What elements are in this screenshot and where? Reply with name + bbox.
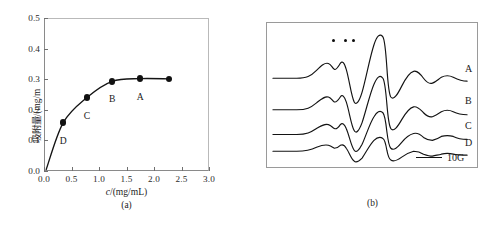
data-point <box>109 78 115 84</box>
x-axis-label: c/(mg/mL) <box>44 186 209 197</box>
panel-b-caption: (b) <box>250 198 495 208</box>
panel-a-adsorption-isotherm: 吸附量/(mg/m 0.00.10.20.30.40.5 0.00.51.01.… <box>0 0 250 232</box>
data-point-label-c: C <box>84 110 90 121</box>
y-tick-label: 0.3 <box>28 74 40 84</box>
trace-label-b: B <box>465 95 472 106</box>
figure-root: 吸附量/(mg/m 0.00.10.20.30.40.5 0.00.51.01.… <box>0 0 495 232</box>
y-tick-label: 0.1 <box>28 135 40 145</box>
y-tick-label: 0.5 <box>28 13 40 23</box>
isotherm-curve <box>44 18 209 171</box>
x-tick <box>209 167 210 171</box>
panel-b-epr-spectra: ABCD 10G (b) <box>250 0 495 232</box>
data-point-label-a: A <box>137 91 144 102</box>
scale-bar-label: 10G <box>447 152 464 163</box>
x-axis-label-units: /(mg/mL) <box>110 186 147 197</box>
y-tick <box>44 171 48 172</box>
spectra-plot-box <box>266 22 478 168</box>
data-point-label-b: B <box>109 93 115 104</box>
trace-label-d: D <box>465 137 472 148</box>
y-tick-label: 0.2 <box>28 105 40 115</box>
spectra-traces <box>267 23 477 167</box>
data-point <box>84 94 90 100</box>
scale-bar-line <box>416 157 442 158</box>
data-point-label-d: D <box>60 135 67 146</box>
data-point <box>166 76 172 82</box>
y-tick-label: 0.4 <box>28 44 40 54</box>
panel-a-caption: (a) <box>44 200 209 210</box>
trace-label-c: C <box>465 120 472 131</box>
trace-label-a: A <box>465 63 472 74</box>
plot-area-a: 0.00.10.20.30.40.5 0.00.51.01.52.02.53.0… <box>44 18 209 171</box>
scale-bar: 10G <box>416 152 464 163</box>
spectrum-trace-a <box>273 35 467 103</box>
